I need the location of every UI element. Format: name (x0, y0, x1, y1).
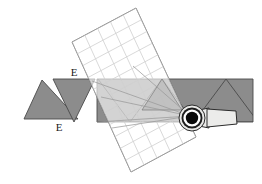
eye-pupil (186, 112, 198, 124)
eye-barrel-body (207, 109, 237, 127)
label-e-lower-left: E (56, 121, 63, 133)
optics-diagram-figure: E E (0, 0, 262, 184)
diagram-canvas: E E (0, 0, 262, 184)
label-e-upper: E (71, 66, 78, 78)
